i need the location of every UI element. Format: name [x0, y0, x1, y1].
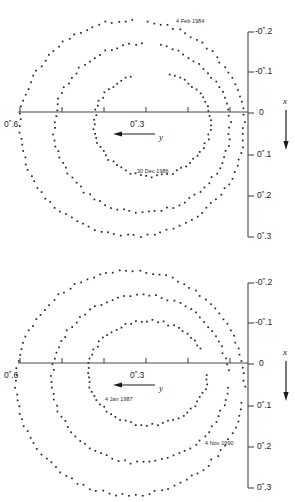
dot-track-group-bottom: [14, 270, 246, 497]
x-axis-name-y: y: [159, 383, 163, 393]
astrometric-orbit-figure: 0″.6 0″.3 -0″.2 -0″.1 0 0″.1 0″.2 0″.3 y…: [0, 0, 295, 502]
y-axis-tick-label-0.2: 0″.2: [257, 441, 271, 451]
x-axis-name-y: y: [159, 132, 163, 142]
annotation-date-start-top: 4 Feb 1984: [176, 18, 204, 24]
y-axis-name-x: x: [283, 347, 287, 357]
annotation-date-end-bottom: 4 Nov 1990: [205, 440, 234, 446]
y-axis-tick-label-neg0.2: -0″.2: [255, 26, 272, 36]
y-axis-tick-label-neg0.1: -0″.1: [255, 317, 272, 327]
x-axis-tick-label-0.3: 0″.3: [130, 370, 144, 380]
y-axis-tick-label-0.1: 0″.1: [257, 149, 271, 159]
x-axis-tick-label-0.6: 0″.6: [4, 119, 18, 129]
y-axis-tick-label-neg0.2: -0″.2: [255, 277, 272, 287]
y-axis-tick-label-0.3: 0″.3: [257, 482, 271, 492]
x-axis-tick-label-0.6: 0″.6: [4, 370, 18, 380]
y-axis-tick-label-0.2: 0″.2: [257, 190, 271, 200]
y-axis-tick-label-0.3: 0″.3: [257, 231, 271, 241]
axes-group-bottom: [18, 283, 289, 488]
y-axis-tick-label-0.1: 0″.1: [257, 400, 271, 410]
y-axis-name-x: x: [283, 96, 287, 106]
x-axis-tick-label-0.3: 0″.3: [130, 119, 144, 129]
annotation-date-end-top: 30 Dec 1986: [137, 168, 169, 174]
panel-bottom: 0″.6 0″.3 -0″.2 -0″.1 0 0″.1 0″.2 0″.3 y…: [0, 251, 295, 502]
panel-top: 0″.6 0″.3 -0″.2 -0″.1 0 0″.1 0″.2 0″.3 y…: [0, 0, 295, 251]
y-axis-tick-label-neg0.1: -0″.1: [255, 66, 272, 76]
plot-canvas-top: [0, 0, 295, 251]
axes-group-top: [18, 32, 289, 237]
y-axis-tick-label-0: 0: [259, 358, 264, 368]
plot-canvas-bottom: [0, 251, 295, 502]
annotation-date-start-bottom: 4 Jan 1987: [105, 396, 133, 402]
y-axis-tick-label-0: 0: [259, 107, 264, 117]
